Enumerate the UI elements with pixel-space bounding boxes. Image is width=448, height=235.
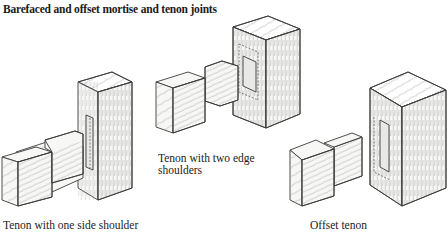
joint-one-side-shoulder — [2, 72, 132, 206]
caption-two-edge-shoulders: Tenon with two edge shoulders — [158, 152, 255, 176]
joint-illustrations — [0, 0, 448, 235]
caption-one-side-shoulder: Tenon with one side shoulder — [3, 219, 138, 231]
caption-offset-tenon: Offset tenon — [310, 219, 367, 231]
caption-two-edge-line2: shoulders — [158, 164, 255, 176]
joint-offset-tenon — [290, 72, 446, 206]
caption-two-edge-line1: Tenon with two edge — [158, 152, 255, 164]
joint-two-edge-shoulders — [156, 16, 300, 133]
